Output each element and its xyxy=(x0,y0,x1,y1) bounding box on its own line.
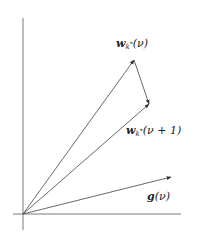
label-g-arg: (ν) xyxy=(155,190,170,203)
label-g-vec: g xyxy=(147,190,155,203)
vector-w-nu xyxy=(23,60,134,214)
vector-w-nu-plus-1 xyxy=(23,104,149,214)
update-vector xyxy=(134,60,149,104)
label-w-nu-plus-1: wk*(ν + 1) xyxy=(126,125,181,138)
label-w-nu-arg: (ν) xyxy=(133,37,148,50)
label-w-nu1-arg: (ν + 1) xyxy=(143,124,181,137)
label-g-nu: g(ν) xyxy=(147,191,170,202)
label-w-nu: wk*(ν) xyxy=(116,38,148,51)
